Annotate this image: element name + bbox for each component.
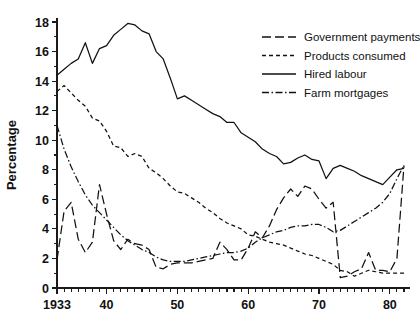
legend-label-2: Hired labour: [304, 68, 367, 80]
y-axis: 024681012141618: [35, 16, 57, 296]
x-tick-label: 60: [241, 298, 255, 312]
y-tick-label: 12: [35, 104, 49, 118]
series-line-1: [57, 86, 404, 277]
chart-container: 024681012141618 19334050607080 Percentag…: [0, 0, 420, 322]
y-tick-label: 18: [35, 16, 49, 30]
y-axis-title: Percentage: [4, 120, 19, 190]
x-tick-label: 70: [312, 298, 326, 312]
chart-legend: Government paymentsProducts consumedHire…: [262, 31, 420, 99]
x-tick-label: 80: [383, 298, 397, 312]
legend-label-0: Government payments: [304, 31, 420, 43]
line-chart: 024681012141618 19334050607080 Percentag…: [0, 0, 420, 322]
x-axis: 19334050607080: [43, 288, 410, 312]
series-line-0: [57, 165, 404, 277]
y-tick-label: 10: [35, 134, 49, 148]
x-tick-label: 50: [170, 298, 184, 312]
x-tick-label: 1933: [43, 298, 71, 312]
x-tick-label: 40: [100, 298, 114, 312]
legend-label-3: Farm mortgages: [304, 87, 389, 99]
y-tick-label: 14: [35, 75, 49, 89]
series-line-3: [57, 125, 404, 261]
y-tick-label: 16: [35, 45, 49, 59]
legend-label-1: Products consumed: [304, 50, 406, 62]
y-tick-label: 4: [42, 222, 49, 236]
y-tick-label: 8: [42, 163, 49, 177]
series-line-2: [57, 23, 404, 184]
y-tick-label: 0: [42, 282, 49, 296]
series-lines: [57, 23, 404, 277]
y-tick-label: 2: [42, 252, 49, 266]
y-tick-label: 6: [42, 193, 49, 207]
